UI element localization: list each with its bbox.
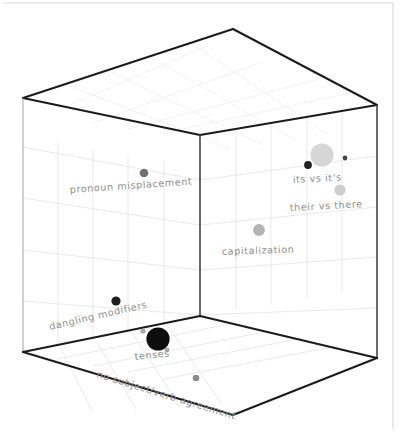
data-point-bubble[interactable] (343, 156, 348, 161)
data-point-bubble[interactable] (193, 375, 200, 382)
data-point-bubble[interactable] (334, 184, 345, 195)
data-point-bubble[interactable] (311, 144, 334, 167)
data-point-bubble[interactable] (140, 328, 145, 333)
figure-canvas: pronoun misplacementits vs it'stheir vs … (0, 0, 405, 433)
right-pane-fill (200, 105, 377, 358)
data-point-bubble[interactable] (253, 224, 265, 236)
scatter3d-plot: pronoun misplacementits vs it'stheir vs … (0, 0, 405, 433)
data-point-bubble[interactable] (304, 161, 312, 169)
data-point-bubble[interactable] (140, 169, 149, 178)
